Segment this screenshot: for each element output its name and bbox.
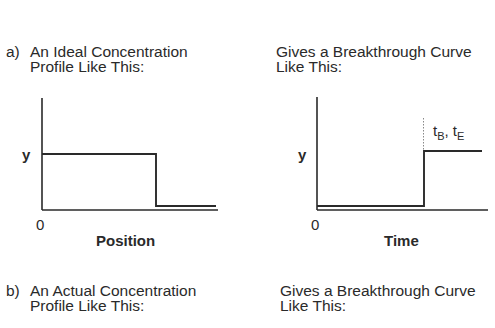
caption-b-left-line1: An Actual Concentration: [30, 283, 196, 298]
left-origin-label: 0: [36, 216, 44, 233]
right-origin-label: 0: [311, 216, 319, 233]
ideal-profile-curve: [42, 154, 216, 206]
caption-b-right-line1: Gives a Breakthrough Curve: [280, 283, 495, 298]
breakthrough-time-annotation: tB, tE: [433, 122, 464, 142]
right-y-label: y: [298, 146, 307, 163]
caption-b-left-line2: Profile Like This:: [30, 298, 196, 313]
caption-b-right-line2: Like This:: [280, 298, 495, 313]
ideal-profile-plot: [42, 98, 218, 210]
right-x-label: Time: [384, 232, 419, 249]
left-x-label: Position: [96, 232, 155, 249]
section-b-tag: b): [6, 283, 20, 298]
left-y-label: y: [22, 146, 31, 163]
breakthrough-curve-plot: [317, 97, 488, 210]
diagram-canvas: y 0 Position y 0 Time tB, tE: [0, 0, 495, 328]
caption-b-right: Gives a Breakthrough Curve Like This:: [280, 283, 495, 313]
breakthrough-curve: [317, 151, 482, 206]
